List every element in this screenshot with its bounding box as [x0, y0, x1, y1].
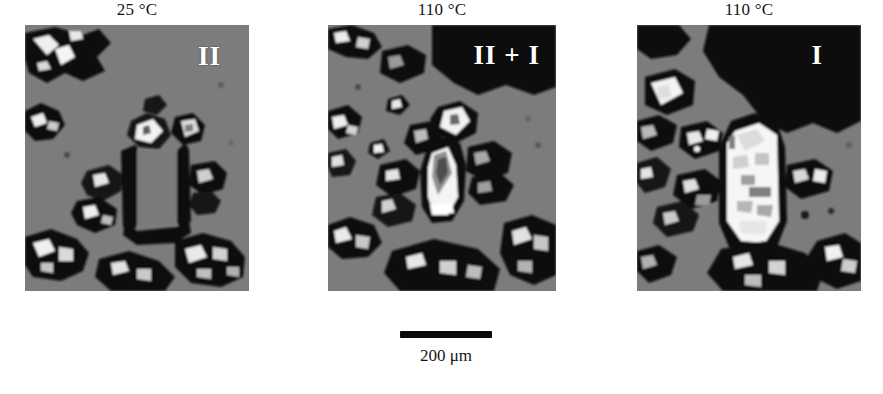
panel-2-phase-label: II + I: [474, 42, 540, 69]
panel-2-temperature-label: 110 °C: [328, 0, 556, 20]
micrograph-panel-3: 110 °C: [637, 0, 861, 291]
panel-3-temperature-label: 110 °C: [637, 0, 861, 20]
micrograph-panel-2: 110 °C: [328, 0, 556, 291]
scale-bar: 200 μm: [400, 331, 492, 365]
scale-bar-caption: 200 μm: [400, 346, 492, 365]
panel-3-image: I: [637, 25, 861, 291]
panel-1-phase-label: II: [198, 43, 221, 70]
panel-3-phase-label: I: [811, 42, 823, 69]
panel-1-temperature-label: 25 °C: [25, 0, 249, 20]
panel-2-image: II + I: [328, 25, 556, 291]
figure-container: 25 °C: [0, 0, 883, 394]
scale-bar-line: [400, 331, 492, 338]
micrograph-panel-1: 25 °C: [25, 0, 249, 291]
panel-1-image: II: [25, 25, 249, 291]
panel-3-image-content: [637, 25, 861, 291]
